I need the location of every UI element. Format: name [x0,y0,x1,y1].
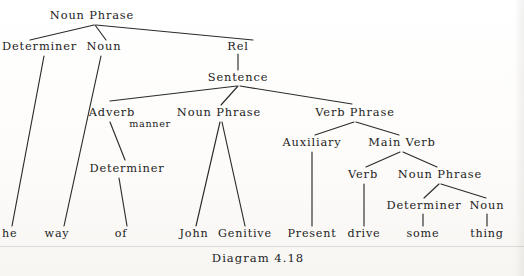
tree-leaf-leaf-thing: thing [470,228,504,239]
tree-edge-det-1-to-leaf-the [12,56,44,226]
tree-node-np-2: Noun Phrase [177,107,261,118]
tree-edge-np-3-to-noun-3 [441,184,486,198]
tree-leaf-leaf-john: John [180,228,209,239]
tree-node-det-3: Determiner [386,200,461,211]
tree-edge-vp-to-auxiliary [315,122,354,135]
tree-edge-adverb-to-det-2 [110,122,125,160]
tree-edge-np-root-to-rel [96,25,253,40]
tree-edge-np-root-to-noun-1 [95,25,106,40]
tree-leaf-leaf-drive: drive [347,228,380,239]
tree-node-verb: Verb [348,169,378,180]
tree-edge-np-3-to-det-3 [424,184,439,198]
tree-node-np-3: Noun Phrase [398,169,482,180]
tree-leaf-leaf-the: he [2,228,17,239]
tree-edge-sentence-to-adverb [110,86,237,101]
tree-edge-np-2-to-leaf-genitive [222,122,245,226]
tree-leaf-leaf-some: some [407,228,440,239]
tree-edge-det-2-to-leaf-of [119,178,127,226]
tree-node-rel: Rel [227,41,249,52]
figure-caption: Diagram 4.18 [212,253,304,265]
tree-node-det-1: Determiner [2,41,77,52]
tree-node-sentence: Sentence [208,72,268,83]
tree-leaf-leaf-way: way [45,228,70,239]
tree-node-auxiliary: Auxiliary [282,137,341,148]
tree-edge-noun-1-to-leaf-way [64,56,101,226]
tree-subscript-adverb-subscript: manner [129,119,171,129]
tree-edge-vp-to-main-verb [356,122,399,135]
tree-edge-sentence-to-vp [240,86,352,104]
tree-leaf-leaf-genitive: Genitive [218,228,272,239]
tree-edge-main-verb-to-verb [366,152,400,167]
tree-leaf-leaf-of: of [115,228,127,239]
tree-node-vp: Verb Phrase [315,107,394,118]
diagram-page: Noun PhraseDeterminerNounRelSentenceAdve… [0,0,524,276]
tree-node-noun-1: Noun [87,41,122,52]
tree-node-np-root: Noun Phrase [50,10,134,21]
scan-artifact-line [0,246,524,247]
tree-leaf-leaf-present: Present [287,228,336,239]
page-edge-shadow [514,0,524,276]
tree-edge-np-root-to-det-1 [30,25,94,40]
tree-node-det-2: Determiner [89,163,164,174]
tree-edge-sentence-to-np-2 [221,86,238,105]
tree-node-main-verb: Main Verb [368,137,435,148]
tree-edge-np-2-to-leaf-john [196,122,220,226]
tree-node-noun-3: Noun [470,200,505,211]
tree-node-adverb: Adverb [89,107,136,118]
tree-edge-main-verb-to-np-3 [403,152,437,167]
